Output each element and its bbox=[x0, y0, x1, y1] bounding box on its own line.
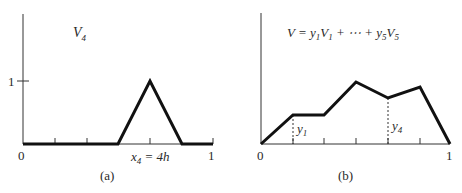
panel-b-x-end-label: 1 bbox=[446, 148, 453, 163]
panel-a-y-tick-label: 1 bbox=[8, 74, 15, 89]
panel-a-x-origin-label: 0 bbox=[18, 148, 25, 163]
panel-a-hat-function bbox=[23, 81, 213, 144]
panel-b-y1-label: y1 bbox=[295, 121, 307, 138]
panel-a-title: V4 bbox=[73, 25, 87, 43]
panel-b-title: V = y1V1 + ⋯ + y5V5 bbox=[287, 25, 399, 42]
panel-a: V4 1 0 1 x4 = 4h (a) bbox=[8, 14, 215, 183]
panel-a-node-label: x4 = 4h bbox=[130, 149, 170, 166]
panel-b-x-origin-label: 0 bbox=[257, 148, 264, 163]
panel-a-x-end-label: 1 bbox=[208, 148, 215, 163]
panel-a-caption: (a) bbox=[100, 168, 114, 183]
panel-b-x-ticks bbox=[293, 138, 420, 144]
panel-b: V = y1V1 + ⋯ + y5V5 y1 y4 0 1 (b) bbox=[257, 13, 453, 183]
figure-canvas: V4 1 0 1 x4 = 4h (a) V = y1V1 + ⋯ + y5V5… bbox=[0, 0, 462, 193]
panel-b-caption: (b) bbox=[338, 168, 353, 183]
panel-b-piecewise-linear-function bbox=[261, 82, 450, 144]
panel-b-y4-label: y4 bbox=[390, 118, 403, 135]
